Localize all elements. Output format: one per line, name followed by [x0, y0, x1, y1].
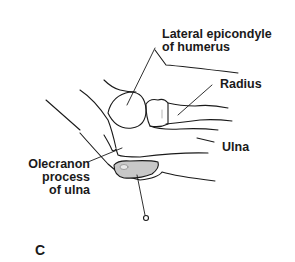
bursa-highlight: [120, 165, 128, 170]
leader-olecranon: [88, 148, 122, 162]
label-ulna: Ulna: [222, 141, 249, 154]
label-lateral-epicondyle: Lateral epicondyle of humerus: [162, 28, 272, 54]
label-olecranon: Olecranon process of ulna: [22, 158, 90, 197]
skin-left-line: [46, 100, 80, 130]
elbow-anatomy-figure: Lateral epicondyle of humerus Radius Uln…: [0, 0, 295, 262]
needle-hub: [144, 216, 149, 221]
panel-label-text: C: [35, 242, 45, 258]
needle-shaft: [137, 175, 145, 215]
label-olecranon-line3: of ulna: [22, 184, 90, 197]
radius-shaft-bottom: [166, 120, 232, 124]
lateral-epicondyle-shape: [108, 92, 146, 128]
radius-shaft-top: [168, 103, 228, 108]
leader-radius: [178, 85, 212, 115]
olecranon-bursa: [114, 161, 158, 179]
forearm-upper-edge: [104, 80, 136, 92]
label-ulna-text: Ulna: [222, 140, 249, 154]
panel-label: C: [35, 242, 45, 258]
label-radius: Radius: [220, 78, 262, 91]
label-radius-text: Radius: [220, 77, 262, 91]
olecranon-outline: [104, 135, 208, 157]
ulna-tick: [197, 138, 214, 142]
radius-head: [146, 99, 168, 126]
label-lateral-epicondyle-line2: of humerus: [162, 41, 272, 54]
